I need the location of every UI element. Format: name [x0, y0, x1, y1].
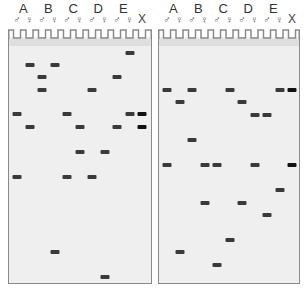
dna-band: [225, 88, 234, 92]
dna-band: [250, 113, 259, 117]
dna-band: [163, 88, 172, 92]
dna-band: [138, 125, 147, 129]
dna-band: [113, 75, 122, 79]
group-label-e: E: [269, 1, 278, 16]
dna-band: [175, 250, 184, 254]
group-label-c: C: [219, 1, 228, 16]
group-label-b: B: [194, 1, 203, 16]
dna-band: [238, 201, 247, 205]
dna-band: [88, 88, 97, 92]
dna-band: [13, 175, 22, 179]
gel-slab: [8, 37, 152, 284]
dna-band: [288, 88, 297, 92]
dna-band: [263, 113, 272, 117]
dna-band: [275, 88, 284, 92]
dna-band: [288, 163, 297, 167]
dna-band: [25, 125, 34, 129]
dna-band: [213, 163, 222, 167]
dna-band: [38, 75, 47, 79]
dna-band: [225, 238, 234, 242]
dna-band: [25, 63, 34, 67]
dna-band: [200, 163, 209, 167]
dna-band: [188, 138, 197, 142]
dna-band: [263, 213, 272, 217]
dna-band: [200, 201, 209, 205]
dna-band: [238, 100, 247, 104]
left-gel: [8, 0, 152, 289]
group-label-c: C: [69, 1, 78, 16]
group-label-b: B: [44, 1, 53, 16]
sample-wells: [158, 29, 300, 39]
group-label-a: A: [19, 1, 28, 16]
group-label-a: A: [169, 1, 178, 16]
dna-band: [188, 88, 197, 92]
dna-band: [113, 125, 122, 129]
dna-band: [138, 112, 147, 116]
dna-band: [275, 188, 284, 192]
dna-band: [163, 163, 172, 167]
dna-band: [63, 175, 72, 179]
dna-band: [50, 63, 59, 67]
sample-wells: [8, 29, 152, 39]
lane-label-control: X: [138, 13, 146, 25]
dna-band: [38, 88, 47, 92]
dna-band: [63, 112, 72, 116]
dna-band: [88, 175, 97, 179]
dna-band: [175, 100, 184, 104]
gel-slab: [158, 37, 300, 284]
group-label-d: D: [94, 1, 103, 16]
dna-band: [50, 250, 59, 254]
dna-band: [213, 263, 222, 267]
dna-band: [75, 125, 84, 129]
dna-band: [250, 163, 259, 167]
lane-label-control: X: [288, 13, 296, 25]
dna-band: [125, 51, 134, 55]
dna-band: [125, 112, 134, 116]
dna-band: [13, 112, 22, 116]
dna-band: [100, 275, 109, 279]
dna-band: [75, 150, 84, 154]
group-label-d: D: [244, 1, 253, 16]
dna-band: [100, 150, 109, 154]
right-gel: [158, 0, 300, 289]
group-label-e: E: [119, 1, 128, 16]
